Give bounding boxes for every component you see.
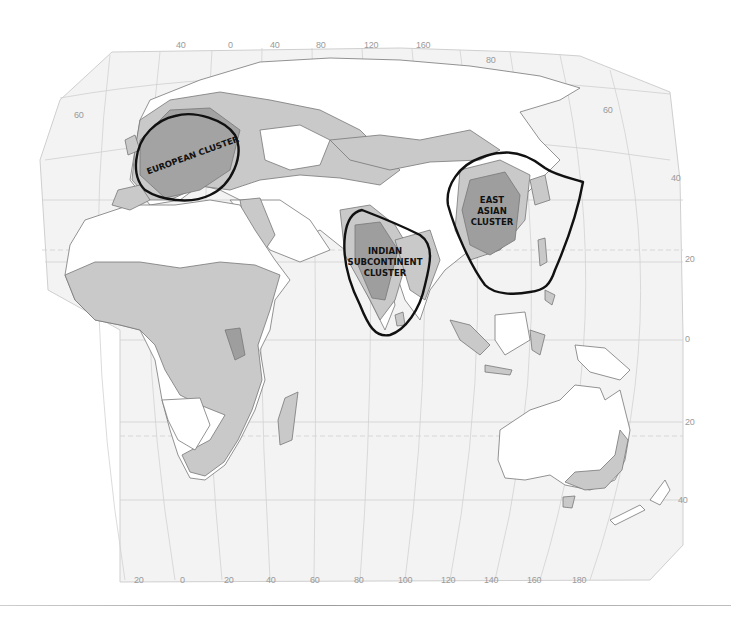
bottom-longitude-label: 20 (134, 575, 144, 585)
indian-cluster-label: INDIAN SUBCONTINENT CLUSTER (340, 246, 430, 279)
right-latitude-label: 20 (685, 254, 695, 264)
world-map (0, 0, 731, 621)
east-asian-label-line-2: ASIAN (462, 206, 522, 217)
bottom-longitude-label: 120 (441, 575, 455, 585)
top-longitude-label: 120 (364, 40, 378, 50)
page-divider (0, 605, 731, 606)
top-longitude-label: 40 (270, 40, 280, 50)
right-latitude-label: 60 (603, 105, 613, 115)
bottom-longitude-label: 20 (224, 575, 234, 585)
right-latitude-label: 0 (685, 334, 690, 344)
bottom-longitude-label: 100 (398, 575, 412, 585)
right-latitude-label: 80 (486, 55, 496, 65)
right-latitude-label: 20 (685, 417, 695, 427)
bottom-longitude-label: 40 (266, 575, 276, 585)
right-latitude-label: 40 (678, 495, 688, 505)
indian-label-line-1: INDIAN (340, 246, 430, 257)
bottom-longitude-label: 180 (572, 575, 586, 585)
top-longitude-label: 80 (316, 40, 326, 50)
bottom-longitude-label: 160 (527, 575, 541, 585)
bottom-longitude-label: 0 (180, 575, 185, 585)
top-longitude-label: 40 (176, 40, 186, 50)
top-longitude-label: 160 (416, 40, 430, 50)
indian-label-line-3: CLUSTER (340, 268, 430, 279)
top-longitude-label: 0 (228, 40, 233, 50)
east-asian-label-line-1: EAST (462, 195, 522, 206)
bottom-longitude-label: 80 (354, 575, 364, 585)
east-asian-label-line-3: CLUSTER (462, 217, 522, 228)
left-latitude-label: 60 (74, 110, 84, 120)
right-latitude-label: 40 (671, 173, 681, 183)
indian-label-line-2: SUBCONTINENT (340, 257, 430, 268)
east-asian-cluster-label: EAST ASIAN CLUSTER (462, 195, 522, 228)
bottom-longitude-label: 140 (484, 575, 498, 585)
bottom-longitude-label: 60 (310, 575, 320, 585)
